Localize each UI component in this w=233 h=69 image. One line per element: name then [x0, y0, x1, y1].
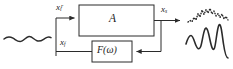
feedback-label-subscript: f — [64, 41, 66, 47]
forward-gain-block-label: A — [109, 13, 116, 25]
input-waveform — [4, 37, 51, 42]
input-signal-label: xir — [56, 3, 63, 13]
feedback-signal-label: xf — [60, 38, 66, 48]
output-label-subscript: s — [165, 8, 167, 14]
output-signal-waveform — [186, 25, 228, 58]
output-noisy-waveform — [188, 9, 228, 23]
omega-symbol: ω — [106, 44, 113, 55]
diagram-graphics — [0, 0, 233, 69]
feedback-filter-block-label: F(ω) — [97, 45, 117, 55]
output-signal-label: xs — [161, 5, 167, 15]
filter-label-close: ) — [114, 44, 117, 55]
input-label-superscript: r — [61, 3, 63, 9]
input-feedback-junction-line — [56, 18, 75, 56]
block-diagram-canvas: A F(ω) xir xs xf — [0, 0, 233, 69]
forward-gain-block — [79, 5, 154, 36]
